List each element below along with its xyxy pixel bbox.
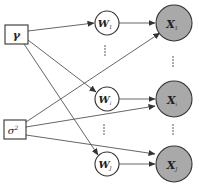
graphical-model-diagram: γ σ2 W1 Wi WJ X1 Xi — [0, 0, 199, 186]
node-W1: W1 — [95, 11, 119, 35]
edge-gamma-W1 — [28, 23, 94, 31]
edge-gamma-WJ — [24, 44, 98, 155]
ellipsis-X-upper — [172, 56, 174, 67]
node-XJ: XJ — [156, 146, 192, 182]
ellipsis-W-lower — [103, 124, 105, 135]
edges — [24, 23, 160, 164]
XJ-label: X — [166, 159, 176, 172]
node-Wi: Wi — [95, 87, 119, 111]
W1-subscript: 1 — [109, 24, 112, 30]
Xi-label: X — [166, 94, 176, 107]
X1-subscript: 1 — [175, 25, 178, 31]
node-X1: X1 — [156, 5, 192, 41]
edge-sigma2-XJ — [26, 135, 155, 154]
ellipsis-X-lower — [172, 124, 174, 135]
node-WJ: WJ — [95, 152, 119, 176]
X1-label: X — [165, 18, 175, 31]
node-Xi: Xi — [156, 81, 192, 117]
node-gamma: γ — [5, 25, 28, 44]
node-sigma2: σ2 — [4, 120, 26, 139]
sigma-superscript: 2 — [14, 124, 19, 131]
ellipsis-W-upper — [104, 45, 106, 56]
gamma-label: γ — [13, 29, 21, 42]
